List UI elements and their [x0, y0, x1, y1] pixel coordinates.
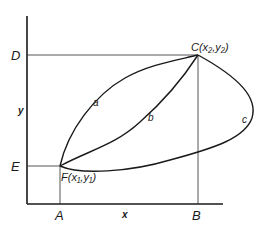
label-B: B	[192, 208, 201, 223]
label-A: A	[54, 208, 64, 223]
path-a-label: a	[93, 97, 99, 108]
x-axis-label: x	[121, 209, 128, 220]
label-D: D	[11, 48, 20, 63]
point-F-label: F(x₁,y₁)	[61, 171, 96, 183]
path-diagram: D E y A x B C(x₂,y₂) F(x₁,y₁) a b c	[0, 0, 265, 229]
path-a-curve	[60, 55, 198, 166]
path-b-label: b	[148, 112, 154, 123]
path-c-label: c	[242, 114, 247, 125]
path-b-curve	[60, 55, 198, 166]
y-axis-label: y	[17, 105, 24, 116]
path-c-curve	[60, 55, 253, 171]
point-C-label: C(x₂,y₂)	[191, 41, 229, 53]
label-E: E	[11, 159, 20, 174]
